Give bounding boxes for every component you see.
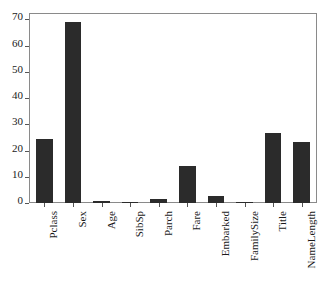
bar[interactable] [36, 139, 53, 203]
bar[interactable] [179, 166, 196, 203]
x-axis-tick-mark [102, 203, 103, 207]
y-axis-tick-mark [25, 19, 29, 20]
x-axis-tick-label: Title [277, 211, 288, 231]
bars-layer [30, 14, 316, 203]
x-axis-tick-label: Fare [191, 211, 202, 231]
x-axis-tick-mark [130, 203, 131, 207]
y-axis-tick-mark [25, 46, 29, 47]
bar-slot [93, 14, 110, 203]
x-axis-tick-mark [159, 203, 160, 207]
x-axis-tick-mark [73, 203, 74, 207]
y-axis-tick-label: 50 [12, 64, 23, 75]
y-axis-tick-label: 30 [12, 116, 23, 127]
x-axis-tick-mark [245, 203, 246, 207]
y-axis-tick-mark [25, 72, 29, 73]
y-axis-tick-label: 20 [12, 143, 23, 154]
bar-slot [122, 14, 139, 203]
x-axis-tick-label: Embarked [220, 211, 231, 256]
y-axis-tick-label: 60 [12, 38, 23, 49]
x-axis-tick-mark [44, 203, 45, 207]
bar-chart: 010203040506070 PclassSexAgeSibSpParchFa… [0, 0, 332, 281]
y-axis-tick-mark [25, 124, 29, 125]
x-axis-tick-mark [302, 203, 303, 207]
y-axis-tick-mark [25, 98, 29, 99]
bar-slot [236, 14, 253, 203]
bar[interactable] [293, 142, 310, 203]
bar-slot [293, 14, 310, 203]
y-axis-tick-label: 70 [12, 11, 23, 22]
y-axis-tick-label: 0 [18, 195, 24, 206]
y-axis-tick-mark [25, 177, 29, 178]
y-axis-tick-label: 10 [12, 169, 23, 180]
bar-slot [179, 14, 196, 203]
x-axis-tick-label: Age [106, 211, 117, 229]
y-axis-tick-mark [25, 151, 29, 152]
bar-slot [208, 14, 225, 203]
bar[interactable] [265, 133, 282, 203]
x-axis-tick-label: Parch [163, 211, 174, 236]
x-axis-tick-mark [187, 203, 188, 207]
x-axis-tick-label: SibSp [134, 211, 145, 237]
bar-slot [65, 14, 82, 203]
x-axis: PclassSexAgeSibSpParchFareEmbarkedFamily… [30, 203, 316, 281]
x-axis-tick-mark [273, 203, 274, 207]
x-axis-tick-label: NameLength [306, 211, 317, 268]
y-axis-tick-label: 40 [12, 90, 23, 101]
x-axis-tick-label: FamilySize [249, 211, 260, 261]
x-axis-tick-label: Sex [77, 211, 88, 228]
y-axis: 010203040506070 [0, 0, 29, 281]
bar[interactable] [65, 22, 82, 203]
bar-slot [150, 14, 167, 203]
x-axis-tick-mark [216, 203, 217, 207]
y-axis-tick-mark [25, 203, 29, 204]
bar-slot [36, 14, 53, 203]
x-axis-tick-label: Pclass [48, 211, 59, 239]
bar-slot [265, 14, 282, 203]
